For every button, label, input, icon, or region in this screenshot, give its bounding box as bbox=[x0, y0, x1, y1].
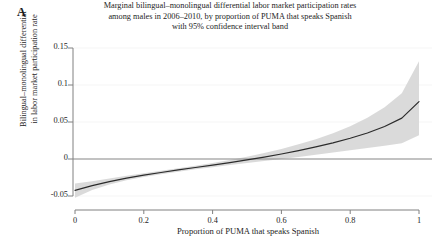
y-tick-label: 0.15 bbox=[38, 42, 68, 51]
y-tick-label: 0 bbox=[38, 153, 68, 162]
x-tick-label: 0.4 bbox=[198, 216, 228, 225]
x-tick-label: 1 bbox=[404, 216, 432, 225]
y-tick-label: 0.1 bbox=[38, 79, 68, 88]
y-tick-label: -0.05 bbox=[38, 190, 68, 199]
x-tick-label: 0.8 bbox=[335, 216, 365, 225]
x-tick-label: 0.6 bbox=[266, 216, 296, 225]
x-tick-label: 0 bbox=[60, 216, 90, 225]
x-tick-label: 0.2 bbox=[129, 216, 159, 225]
y-tick-label: 0.05 bbox=[38, 116, 68, 125]
